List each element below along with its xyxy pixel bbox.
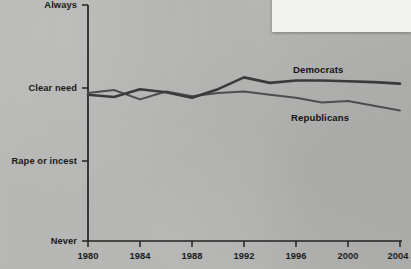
series-line-republicans [88, 90, 400, 110]
x-axis-label-1984: 1984 [129, 251, 150, 261]
x-axis-label-2000: 2000 [337, 251, 358, 261]
y-axis-label-rape-or-incest: Rape or incest [12, 156, 77, 166]
line-chart: Always Clear need Rape or incest Never 1… [0, 0, 411, 269]
x-axis-label-1980: 1980 [77, 251, 98, 261]
chart-canvas [0, 0, 411, 269]
x-axis-label-2004: 2004 [387, 251, 408, 261]
x-axis-label-1988: 1988 [181, 251, 202, 261]
y-axis-label-clear-need: Clear need [28, 83, 77, 93]
series-label-republicans: Republicans [291, 112, 349, 123]
x-axis-label-1996: 1996 [285, 251, 306, 261]
caption-callout-box: obtain an abortion as choice. [272, 0, 411, 32]
y-axis-label-never: Never [51, 236, 77, 246]
x-axis-label-1992: 1992 [233, 251, 254, 261]
series-label-democrats: Democrats [293, 64, 344, 75]
y-axis-label-always: Always [44, 0, 77, 10]
series-line-democrats [88, 77, 400, 97]
